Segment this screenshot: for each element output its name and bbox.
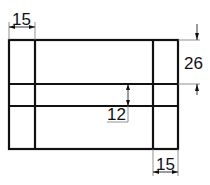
- dimension-center-12: 12: [107, 84, 130, 124]
- dimension-label-top: 15: [12, 10, 31, 29]
- dimension-right-26: 26: [178, 24, 203, 95]
- dimension-label-right: 26: [184, 54, 203, 73]
- dimension-label-center: 12: [107, 105, 126, 124]
- technical-drawing: 15 26 12 15: [0, 0, 210, 185]
- dimension-bottom-15: 15: [153, 149, 178, 176]
- dimension-top-15: 15: [9, 10, 35, 40]
- dimension-label-bottom: 15: [156, 155, 175, 174]
